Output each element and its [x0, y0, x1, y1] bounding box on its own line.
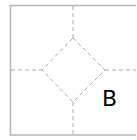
folding-diagram: [0, 0, 136, 140]
paper-frame: [11, 6, 137, 136]
option-label-b: B: [102, 88, 117, 110]
